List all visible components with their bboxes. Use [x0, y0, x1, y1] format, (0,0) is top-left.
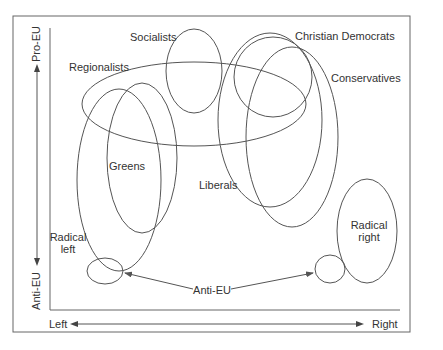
- conservatives-ellipse: [246, 47, 338, 227]
- conservatives-label: Conservatives: [331, 72, 401, 84]
- x-axis-left-label: Left: [49, 318, 67, 330]
- radical-left-label-line1: Radical: [50, 231, 87, 243]
- greens-ellipse: [107, 83, 177, 233]
- anti-eu-label: Anti-EU: [193, 284, 231, 296]
- x-axis-right-label: Right: [372, 318, 398, 330]
- christian-democrats-label: Christian Democrats: [295, 30, 395, 42]
- arrow-up-icon: [34, 64, 40, 72]
- liberals-label: Liberals: [199, 179, 238, 191]
- anti-eu-right-pointer: [231, 273, 313, 289]
- regionalists-ellipse: [82, 62, 306, 146]
- arrow-down-icon: [34, 258, 40, 266]
- anti-eu-right-ellipse: [315, 255, 345, 283]
- arrow-left-icon: [70, 321, 78, 327]
- greens-label: Greens: [109, 160, 146, 172]
- diagram-frame: Pro-EU Anti-EU Left Right Socialists Reg…: [0, 0, 443, 350]
- radical-left-label-line2: left: [61, 243, 76, 255]
- y-axis-bottom-label: Anti-EU: [30, 272, 42, 310]
- eu-party-families-diagram: Pro-EU Anti-EU Left Right Socialists Reg…: [0, 0, 443, 350]
- y-axis-top-label: Pro-EU: [30, 26, 42, 62]
- radical-right-label-line2: right: [358, 231, 379, 243]
- anti-eu-left-pointer: [125, 273, 193, 289]
- radical-right-label-line1: Radical: [351, 219, 388, 231]
- arrow-right-icon: [356, 321, 364, 327]
- regionalists-label: Regionalists: [69, 61, 129, 73]
- socialists-label: Socialists: [130, 31, 177, 43]
- radical-left-ellipse: [77, 89, 161, 271]
